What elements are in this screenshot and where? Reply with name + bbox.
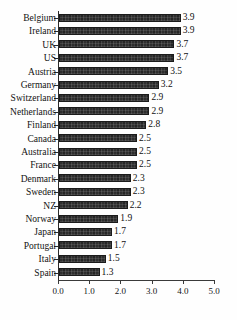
bar-value-label: 1.3 — [102, 267, 114, 278]
bar — [59, 148, 137, 156]
bar-texture — [60, 41, 173, 47]
bar-row: Austria3.5 — [0, 66, 237, 79]
bar — [59, 121, 146, 129]
bar-row: Finland2.8 — [0, 119, 237, 132]
bar — [59, 201, 128, 209]
bar — [59, 81, 159, 89]
bar-texture — [60, 15, 180, 21]
bar-texture — [60, 189, 130, 195]
category-label: US — [0, 52, 56, 64]
category-label: France — [0, 159, 56, 171]
plot-area: Belgium3.9Ireland3.9UK3.7US3.7Austria3.5… — [0, 0, 237, 320]
bar-texture — [60, 68, 167, 74]
x-axis-tick-label: 5.0 — [208, 286, 219, 296]
bar-value-label: 2.3 — [133, 186, 145, 197]
bar-value-label: 2.5 — [139, 146, 151, 157]
bar — [59, 94, 149, 102]
bar-texture — [60, 82, 158, 88]
bar-texture — [60, 149, 136, 155]
bar-row: Canada2.5 — [0, 133, 237, 146]
category-label: Denmark — [0, 173, 56, 185]
bar-value-label: 3.7 — [176, 39, 188, 50]
x-axis-tick — [214, 280, 215, 284]
x-axis-tick — [183, 280, 184, 284]
bar-row: Italy1.5 — [0, 253, 237, 266]
bar-value-label: 2.8 — [148, 119, 160, 130]
x-axis-tick-label: 4.0 — [177, 286, 188, 296]
category-label: Belgium — [0, 12, 56, 24]
bar-texture — [60, 256, 105, 262]
bar-value-label: 2.9 — [151, 92, 163, 103]
bar-value-label: 3.9 — [183, 12, 195, 23]
bar-value-label: 2.5 — [139, 159, 151, 170]
category-label: Japan — [0, 226, 56, 238]
bar — [59, 134, 137, 142]
bar-texture — [60, 229, 111, 235]
category-label: UK — [0, 39, 56, 51]
category-label: NZ — [0, 200, 56, 212]
bar-row: Ireland3.9 — [0, 25, 237, 38]
bar — [59, 161, 137, 169]
category-label: Norway — [0, 213, 56, 225]
x-axis-tick-label: 0.0 — [52, 286, 63, 296]
bar-row: Australia2.5 — [0, 146, 237, 159]
category-label: Australia — [0, 146, 56, 158]
bar-row: Norway1.9 — [0, 213, 237, 226]
bar-value-label: 2.3 — [133, 173, 145, 184]
bar-texture — [60, 162, 136, 168]
bar-row: Germany3.2 — [0, 79, 237, 92]
bar-texture — [60, 175, 130, 181]
bar-row: Portugal1.7 — [0, 240, 237, 253]
bar — [59, 255, 106, 263]
category-label: Switzerland — [0, 92, 56, 104]
bar-chart: Belgium3.9Ireland3.9UK3.7US3.7Austria3.5… — [0, 0, 237, 320]
bar-texture — [60, 122, 145, 128]
x-axis-tick-label: 1.0 — [84, 286, 95, 296]
bar — [59, 27, 181, 35]
category-label: Sweden — [0, 186, 56, 198]
category-label: Portugal — [0, 240, 56, 252]
bar-row: Spain1.3 — [0, 267, 237, 280]
bar-texture — [60, 95, 148, 101]
category-label: Ireland — [0, 25, 56, 37]
bar-value-label: 1.5 — [108, 253, 120, 264]
bar-texture — [60, 55, 173, 61]
bar-value-label: 1.7 — [114, 240, 126, 251]
bar — [59, 14, 181, 22]
bar — [59, 241, 112, 249]
category-label: Austria — [0, 66, 56, 78]
bar-row: Sweden2.3 — [0, 186, 237, 199]
bar — [59, 40, 174, 48]
bar — [59, 174, 131, 182]
bar-texture — [60, 269, 99, 275]
x-axis-tick — [120, 280, 121, 284]
x-axis-tick-label: 2.0 — [115, 286, 126, 296]
bar-row: Belgium3.9 — [0, 12, 237, 25]
bar-row: US3.7 — [0, 52, 237, 65]
category-label: Netherlands — [0, 106, 56, 118]
x-axis-tick — [58, 280, 59, 284]
bar-value-label: 3.9 — [183, 25, 195, 36]
bar-row: France2.5 — [0, 159, 237, 172]
bar-texture — [60, 216, 117, 222]
bar — [59, 54, 174, 62]
bar-row: Netherlands2.9 — [0, 106, 237, 119]
bar-row: Japan1.7 — [0, 226, 237, 239]
bar-texture — [60, 108, 148, 114]
bar — [59, 268, 100, 276]
category-label: Germany — [0, 79, 56, 91]
bar-row: Switzerland2.9 — [0, 92, 237, 105]
bar-texture — [60, 202, 127, 208]
category-label: Spain — [0, 267, 56, 279]
bar — [59, 107, 149, 115]
x-axis-tick — [89, 280, 90, 284]
bar-value-label: 1.9 — [120, 213, 132, 224]
bar-value-label: 3.2 — [161, 79, 173, 90]
bar — [59, 215, 118, 223]
bar-texture — [60, 242, 111, 248]
x-axis-tick — [152, 280, 153, 284]
bar — [59, 188, 131, 196]
bar — [59, 228, 112, 236]
bar-row: UK3.7 — [0, 39, 237, 52]
category-label: Finland — [0, 119, 56, 131]
